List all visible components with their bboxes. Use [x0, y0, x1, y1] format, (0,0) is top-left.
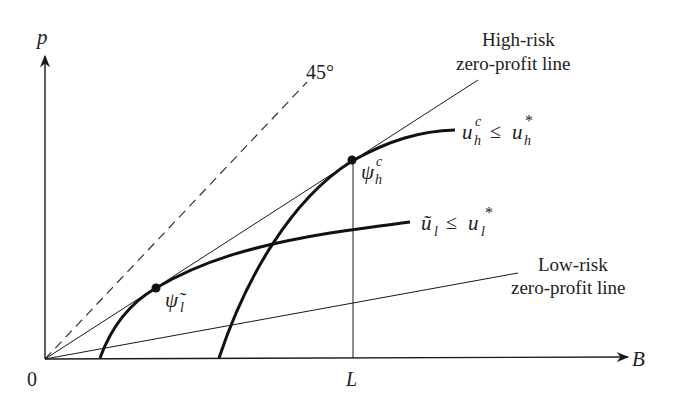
svg-text:c: c [475, 114, 482, 129]
high-risk-label-line1: High-risk [482, 29, 555, 50]
high-risk-label-line2: zero-profit line [456, 53, 570, 74]
origin-label: 0 [27, 368, 37, 390]
svg-text:u: u [462, 120, 473, 144]
x-axis-label: B [632, 347, 645, 371]
svg-text:h: h [375, 172, 382, 187]
svg-text:u: u [468, 211, 479, 235]
svg-text:h: h [524, 133, 531, 148]
psi-h-label: ψ c h [361, 154, 383, 187]
psi-h-point [348, 156, 357, 165]
svg-text:ψ: ψ [361, 160, 375, 184]
svg-text:*: * [485, 204, 493, 221]
high-indifference-label: u c h ≤ u * h [462, 112, 533, 148]
low-risk-label-line1: Low-risk [538, 254, 608, 275]
svg-text:l: l [180, 300, 184, 315]
l-tick-label: L [345, 368, 357, 390]
y-axis-label: p [35, 25, 48, 49]
svg-text:ũ: ũ [421, 211, 432, 235]
high-risk-indifference-curve [219, 130, 455, 358]
low-risk-indifference-curve [100, 222, 410, 358]
low-risk-label-line2: zero-profit line [511, 277, 625, 298]
svg-text:l: l [434, 224, 438, 239]
svg-text:c: c [376, 154, 383, 169]
low-indifference-label: ũ l ≤ u l * [421, 204, 493, 239]
x-axis [45, 357, 628, 359]
svg-text:l: l [481, 224, 485, 239]
svg-text:≤: ≤ [490, 120, 501, 142]
low-risk-zero-profit-line [45, 273, 518, 359]
svg-text:u: u [512, 120, 523, 144]
high-risk-zero-profit-line [45, 80, 478, 359]
psi-l-point [152, 284, 161, 293]
svg-text:h: h [474, 133, 481, 148]
forty-five-degree-line [45, 82, 307, 359]
svg-text:≤: ≤ [446, 211, 457, 233]
forty-five-label: 45° [306, 61, 334, 83]
diagram-canvas: p B 0 L 45° High-risk zero-profit line L… [0, 0, 673, 401]
psi-l-label: ψ̃ l [165, 288, 187, 315]
svg-text:*: * [525, 112, 533, 129]
